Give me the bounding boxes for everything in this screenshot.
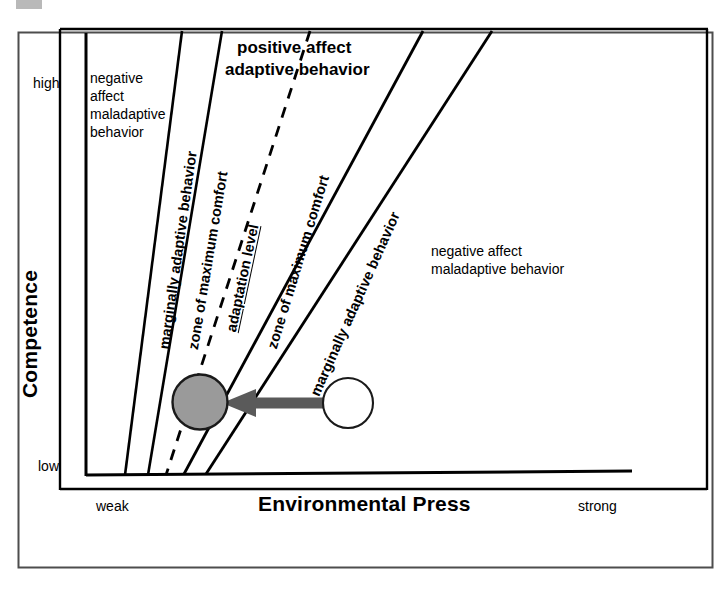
y-axis-title: Competence — [18, 270, 43, 398]
zone-label-top-center-line2: adaptive behavior — [225, 60, 370, 80]
y-tick-high: high — [33, 75, 59, 92]
y-tick-low: low — [38, 458, 59, 475]
x-axis-title: Environmental Press — [258, 492, 471, 517]
zone-label-upper-left-line2: affect — [90, 88, 124, 105]
zone-label-top-center-line1: positive affect — [237, 38, 351, 58]
zone-label-right-line1: negative affect — [431, 243, 522, 260]
zone-label-upper-left-line4: behavior — [90, 124, 144, 141]
figure-root: Competence high low Environmental Press … — [0, 0, 722, 591]
zone-label-right-line2: maladaptive behavior — [431, 261, 564, 278]
zone-label-upper-left-line3: maladaptive — [90, 106, 166, 123]
current-state-marker — [173, 375, 228, 430]
prior-state-marker — [323, 378, 373, 428]
x-tick-weak: weak — [96, 498, 129, 515]
zone-label-upper-left-line1: negative — [90, 70, 143, 87]
x-tick-strong: strong — [578, 498, 617, 515]
